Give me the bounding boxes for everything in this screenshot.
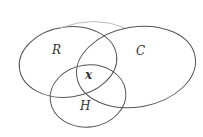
set-h-label: H <box>80 99 90 113</box>
intersection-label: x <box>85 68 92 82</box>
venn-diagram <box>0 0 203 137</box>
set-r-label: R <box>52 43 61 57</box>
set-c-label: C <box>136 44 145 58</box>
set-r-circle <box>15 21 122 104</box>
